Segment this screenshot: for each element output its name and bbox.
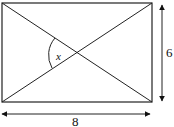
rectangle-diagram: x 6 8 xyxy=(0,0,174,127)
width-label: 8 xyxy=(72,114,79,127)
diagram-canvas: x 6 8 xyxy=(0,0,174,127)
angle-arc xyxy=(49,38,55,68)
angle-label: x xyxy=(55,50,61,62)
height-label: 6 xyxy=(166,45,173,60)
